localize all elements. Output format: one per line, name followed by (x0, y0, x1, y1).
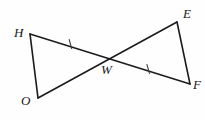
tick-WF-icon (147, 65, 149, 74)
geometry-figure: H O W E F (0, 0, 205, 120)
vertex-label-W: W (101, 63, 112, 76)
figure-canvas (0, 0, 205, 120)
vertex-label-O: O (21, 94, 30, 107)
segment-EF (177, 22, 190, 84)
segment-HO (30, 34, 38, 98)
vertex-label-E: E (183, 7, 191, 20)
vertex-label-F: F (193, 78, 201, 91)
segment-OE (38, 22, 177, 98)
vertex-label-H: H (14, 26, 23, 39)
